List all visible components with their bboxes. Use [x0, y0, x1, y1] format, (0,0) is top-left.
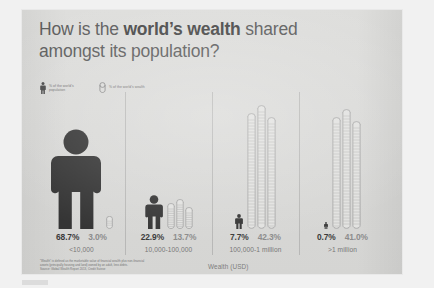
legend-label-population: % of the world’s population [49, 84, 85, 93]
coin-stack-3-2 [257, 105, 266, 229]
value-cell-1: 68.7% 3.0% <10,000 [38, 232, 125, 253]
legend-item-wealth: % of the world’s wealth [99, 82, 145, 93]
coin-stack-4-2 [342, 109, 351, 229]
chart-group-100000-1million [212, 96, 299, 231]
coin-stacks-group-1 [106, 216, 113, 229]
pictogram-chart [38, 96, 386, 231]
population-value-3: 7.7% [230, 232, 249, 242]
person-pictogram-4 [324, 222, 328, 229]
coin-stack-3-1 [247, 113, 256, 229]
title-suffix: shared [241, 19, 298, 39]
value-cell-3: 7.7% 42.3% 100,000-1 million [212, 232, 299, 253]
person-pictogram-2 [145, 195, 163, 229]
footnote: “Wealth” is defined as the marketable va… [40, 260, 208, 272]
value-pair-1: 68.7% 3.0% [38, 232, 125, 242]
population-value-4: 0.7% [317, 232, 336, 242]
wealth-value-4: 41.0% [345, 232, 368, 242]
coin-icon [99, 82, 106, 93]
person-pictogram-3 [235, 214, 243, 229]
person-icon [40, 82, 46, 94]
population-value-1: 68.7% [56, 232, 79, 242]
population-value-2: 22.9% [141, 232, 164, 242]
coin-stacks-group-2 [167, 199, 193, 229]
band-label-2: 10,000-100,000 [125, 246, 212, 253]
legend-item-population: % of the world’s population [40, 82, 85, 94]
chart-group-over-1million [299, 96, 386, 231]
title-emphasis: world’s wealth [123, 19, 240, 39]
coin-stacks-group-3 [247, 105, 276, 229]
footnote-source: Source: Global Wealth Report 2013, Credi… [40, 268, 208, 272]
title-line-2: amongst its population? [39, 41, 219, 61]
coin-stack-2-3 [185, 207, 193, 229]
value-cell-2: 22.9% 13.7% 10,000-100,000 [125, 232, 212, 253]
coin-stack-3-3 [267, 117, 276, 229]
title-prefix: How is the [39, 19, 123, 39]
chart-legend: % of the world’s population % of the wor… [40, 82, 145, 94]
value-pair-4: 0.7% 41.0% [299, 232, 386, 242]
chart-group-under-10000 [38, 96, 125, 231]
value-row: 68.7% 3.0% <10,000 22.9% 13.7% 10,000-10… [38, 232, 386, 253]
value-cell-4: 0.7% 41.0% >1 million [299, 232, 386, 253]
page-title: How is the world’s wealth shared amongst… [39, 18, 369, 62]
band-label-1: <10,000 [38, 246, 125, 253]
coin-stack-4-3 [352, 121, 361, 229]
coin-stack-2-1 [167, 203, 175, 229]
legend-label-wealth: % of the world’s wealth [109, 85, 145, 89]
page-footer-mark [22, 280, 48, 285]
wealth-value-3: 42.3% [258, 232, 281, 242]
wealth-value-2: 13.7% [173, 232, 196, 242]
band-label-4: >1 million [299, 246, 386, 253]
band-label-3: 100,000-1 million [212, 246, 299, 253]
value-pair-3: 7.7% 42.3% [212, 232, 299, 242]
infographic-slide: How is the world’s wealth shared amongst… [22, 10, 402, 274]
value-pair-2: 22.9% 13.7% [125, 232, 212, 242]
coin-stack-4-1 [332, 117, 341, 229]
coin-stack-1-1 [106, 216, 113, 229]
wealth-value-1: 3.0% [88, 232, 107, 242]
axis-label-wealth: Wealth (USD) [208, 263, 249, 270]
chart-group-10000-100000 [125, 96, 212, 231]
coin-stack-2-2 [176, 199, 184, 229]
person-pictogram-1 [50, 129, 102, 229]
coin-stacks-group-4 [332, 109, 361, 229]
